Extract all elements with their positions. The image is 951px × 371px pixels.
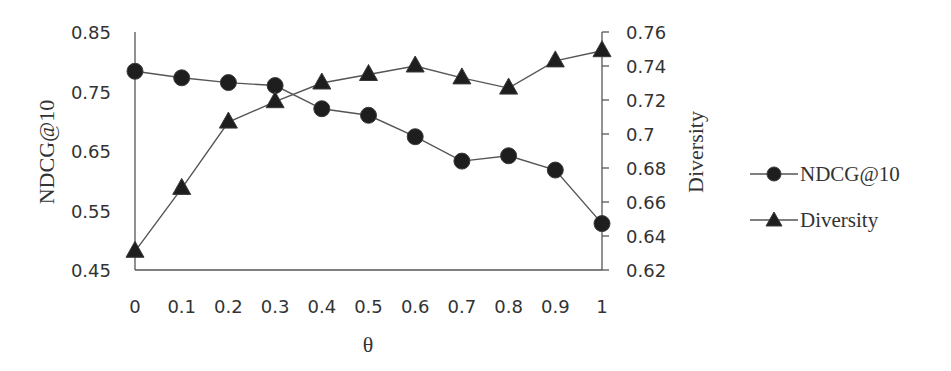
legend-item-diversity: Diversity <box>750 208 879 232</box>
x-tick-label: 0.8 <box>494 296 523 317</box>
right-tick-label: 0.62 <box>626 260 666 281</box>
left-tick-label: 0.65 <box>71 141 111 162</box>
triangle-marker <box>406 56 424 72</box>
right-tick-label: 0.7 <box>626 124 655 145</box>
series-line <box>135 71 602 223</box>
triangle-marker <box>173 178 191 194</box>
dual-axis-line-chart: 0.850.750.650.550.45 0.760.740.720.70.68… <box>0 0 951 371</box>
x-tick-label: 0.3 <box>261 296 290 317</box>
x-tick-label: 0.2 <box>214 296 243 317</box>
right-tick-label: 0.72 <box>626 90 666 111</box>
x-tick-label: 0.4 <box>307 296 336 317</box>
left-tick-label: 0.75 <box>71 82 111 103</box>
circle-marker <box>407 129 423 145</box>
circle-marker <box>594 216 610 232</box>
right-tick-label: 0.64 <box>626 226 666 247</box>
triangle-marker <box>360 65 378 81</box>
right-axis-ticks <box>602 32 609 270</box>
x-tick-label: 1 <box>596 296 607 317</box>
x-tick-label: 0.7 <box>448 296 477 317</box>
plot-area <box>126 32 611 270</box>
right-axis-tick-labels: 0.760.740.720.70.680.660.640.62 <box>626 22 666 281</box>
legend-label-ndcg: NDCG@10 <box>800 162 900 186</box>
right-tick-label: 0.68 <box>626 158 666 179</box>
circle-marker <box>220 75 236 91</box>
triangle-icon <box>766 212 782 226</box>
left-tick-label: 0.45 <box>71 260 111 281</box>
triangle-marker <box>593 41 611 57</box>
legend-label-diversity: Diversity <box>800 208 879 232</box>
legend: NDCG@10 Diversity <box>750 162 900 232</box>
circle-marker <box>174 70 190 86</box>
circle-marker <box>501 148 517 164</box>
x-axis-title: θ <box>363 332 374 357</box>
triangle-marker <box>313 73 331 89</box>
x-tick-label: 0.5 <box>354 296 383 317</box>
series-diversity <box>126 41 611 258</box>
circle-marker <box>454 153 470 169</box>
x-axis-tick-labels: 00.10.20.30.40.50.60.70.80.91 <box>129 296 607 317</box>
x-tick-label: 0.1 <box>167 296 196 317</box>
right-tick-label: 0.76 <box>626 22 666 43</box>
right-tick-label: 0.74 <box>626 56 666 77</box>
circle-marker <box>127 63 143 79</box>
x-tick-label: 0.6 <box>401 296 430 317</box>
left-axis-tick-labels: 0.850.750.650.550.45 <box>71 22 111 281</box>
left-tick-label: 0.55 <box>71 201 111 222</box>
y-axis-title-left: NDCG@10 <box>34 100 59 205</box>
left-tick-label: 0.85 <box>71 22 111 43</box>
circle-marker <box>314 101 330 117</box>
circle-icon <box>767 167 781 181</box>
right-tick-label: 0.66 <box>626 192 666 213</box>
legend-item-ndcg: NDCG@10 <box>750 162 900 186</box>
y-axis-title-right: Diversity <box>683 111 708 193</box>
x-tick-label: 0 <box>129 296 140 317</box>
circle-marker <box>361 107 377 123</box>
series-layer <box>126 41 611 258</box>
series-ndcg-10 <box>127 63 610 231</box>
circle-marker <box>547 162 563 178</box>
x-tick-label: 0.9 <box>541 296 570 317</box>
